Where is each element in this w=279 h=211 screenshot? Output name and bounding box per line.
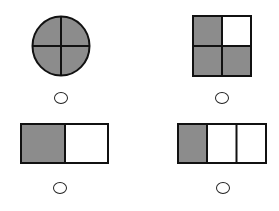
option-b-square-figure xyxy=(192,15,252,77)
option-a-circle-figure xyxy=(31,15,91,77)
option-d-radio[interactable] xyxy=(216,182,230,194)
option-c-radio[interactable] xyxy=(53,182,67,194)
option-d-rectangle-figure xyxy=(177,123,268,165)
option-b-radio[interactable] xyxy=(215,92,229,104)
option-a-radio[interactable] xyxy=(54,92,68,104)
option-c-rectangle-figure xyxy=(20,123,110,165)
